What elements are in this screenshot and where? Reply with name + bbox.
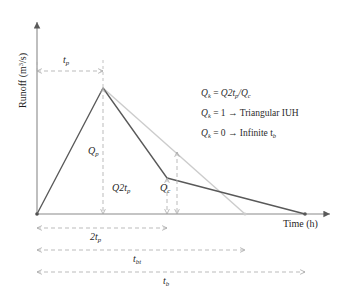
eq2-result: Infinite t — [240, 128, 273, 138]
label-2tp: 2tp — [90, 232, 101, 244]
eq2-lhs-sub: k — [208, 132, 211, 139]
label-qc: Qc — [160, 183, 170, 195]
eq1-result: Triangular IUH — [240, 108, 299, 118]
eq0-operator: = — [213, 88, 218, 98]
label-tb-sub: b — [166, 280, 169, 287]
label-tp-sub: p — [66, 59, 69, 66]
hydrograph-svg — [0, 0, 342, 292]
label-q2tp: Q2tp — [112, 183, 130, 195]
equation-qk-equals-one: Qk = 1 → Triangular IUH — [201, 108, 299, 119]
label-q2tp-base: Q2t — [112, 182, 127, 193]
label-q2tp-sub: p — [127, 187, 130, 194]
label-tbt: tbt — [133, 254, 141, 266]
equation-qk-equals-zero: Qk = 0 → Infinite tb — [201, 128, 276, 139]
eq0-rhs-tail: /Q — [238, 88, 248, 98]
runoff-hydrograph-curve — [37, 88, 305, 214]
y-axis-label-main: Runoff (m — [17, 66, 28, 108]
equation-qk-definition: Qk = Q2tp/Qc — [201, 88, 251, 99]
label-qc-sub: c — [167, 187, 170, 194]
reference-end-marker — [243, 212, 246, 215]
curve-end-marker — [303, 212, 307, 216]
label-tp: tp — [63, 55, 69, 67]
right-arrow-icon: → — [228, 108, 238, 118]
triangular-iuh-reference-line — [103, 88, 245, 214]
eq0-rhs-tail-sub: c — [248, 92, 251, 99]
right-arrow-icon-2: → — [228, 128, 238, 138]
eq1-lhs-sub: k — [208, 112, 211, 119]
label-tb: tb — [163, 276, 169, 288]
figure-canvas: Runoff (m3/s) Time (h) tp Qp Q2tp Qc 2tp… — [0, 0, 342, 292]
label-2tp-base: 2t — [90, 231, 98, 242]
eq2-lhs: Q — [201, 128, 208, 138]
eq0-lhs-sub: k — [208, 92, 211, 99]
eq0-lhs: Q — [201, 88, 208, 98]
y-axis-label-tail: /s) — [17, 53, 28, 63]
label-qp-sub: p — [95, 150, 98, 157]
eq2-result-sub: b — [273, 132, 276, 139]
eq1-operator: = 1 — [213, 108, 225, 118]
eq1-lhs: Q — [201, 108, 208, 118]
label-2tp-sub: p — [98, 236, 101, 243]
label-qp: Qp — [88, 146, 99, 158]
eq2-operator: = 0 — [213, 128, 225, 138]
eq0-rhs: Q2t — [221, 88, 235, 98]
x-axis-label: Time (h) — [283, 219, 318, 229]
y-axis-label-exponent: 3 — [17, 63, 24, 66]
y-axis-label: Runoff (m3/s) — [18, 53, 28, 108]
label-tbt-sub: bt — [136, 258, 141, 265]
